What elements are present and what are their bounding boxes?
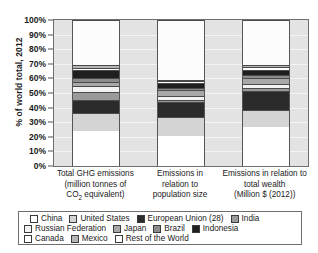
bar-segment[interactable]	[158, 20, 204, 80]
legend-swatch-icon	[153, 225, 161, 233]
bar-segment[interactable]	[73, 78, 119, 82]
legend-swatch-icon	[231, 215, 239, 223]
bar-segment[interactable]	[243, 84, 289, 88]
legend-row: Russian FederationJapanBrazilIndonesia	[23, 224, 298, 234]
bar-segment[interactable]	[158, 102, 204, 117]
bar-segment[interactable]	[73, 82, 119, 86]
bar-segment[interactable]	[73, 131, 119, 166]
y-tick-label: 0%	[34, 161, 46, 171]
x-category-label: Emissions inrelation topopulation size	[138, 169, 223, 201]
y-tick-label: 40%	[29, 103, 46, 113]
legend-label: Indonesia	[203, 225, 239, 233]
bar-segment[interactable]	[73, 86, 119, 93]
legend-swatch-icon	[24, 235, 32, 243]
bar-segment[interactable]	[73, 100, 119, 112]
legend-swatch-icon	[24, 225, 32, 233]
stacked-bar[interactable]	[157, 20, 205, 166]
bar-segment[interactable]	[158, 80, 204, 81]
bar-segment[interactable]	[158, 100, 204, 102]
legend-item[interactable]: Mexico	[71, 235, 108, 243]
legend-swatch-icon	[30, 215, 38, 223]
bar-segment[interactable]	[243, 70, 289, 75]
legend-swatch-icon	[115, 235, 123, 243]
y-tick-label: 100%	[24, 15, 46, 25]
legend-label: United States	[80, 215, 129, 223]
stacked-bar[interactable]	[72, 20, 120, 166]
legend-label: Mexico	[82, 235, 108, 243]
bar-segment[interactable]	[73, 65, 119, 67]
y-tick-label: 80%	[29, 44, 46, 54]
legend-label: Rest of the World	[126, 235, 189, 243]
x-category-label: Emissions in relation tototal wealth(Mil…	[222, 169, 307, 201]
y-axis-labels: 100%90%80%70%60%50%40%30%20%10%0%	[0, 19, 53, 167]
legend-label: European Union (28)	[148, 215, 224, 223]
y-tick-label: 30%	[29, 117, 46, 127]
bar-segment[interactable]	[243, 20, 289, 65]
bar-group	[54, 20, 308, 166]
legend-item[interactable]: China	[30, 215, 62, 223]
bar-segment[interactable]	[158, 117, 204, 136]
y-tick-label: 20%	[29, 132, 46, 142]
bar-segment[interactable]	[243, 110, 289, 128]
bar-segment[interactable]	[158, 81, 204, 82]
chart-figure: % of world total, 2012 100%90%80%70%60%5…	[0, 0, 318, 253]
legend-item[interactable]: Brazil	[153, 225, 184, 233]
bar-segment[interactable]	[73, 20, 119, 65]
bar-segment[interactable]	[73, 113, 119, 131]
legend-swatch-icon	[69, 215, 77, 223]
legend-label: India	[242, 215, 260, 223]
legend-swatch-icon	[113, 225, 121, 233]
bar-segment[interactable]	[73, 68, 119, 70]
legend-label: Canada	[35, 235, 64, 243]
bar-segment[interactable]	[243, 88, 289, 91]
legend-label: Russian Federation	[35, 225, 106, 233]
legend-item[interactable]: India	[231, 215, 260, 223]
bar-segment[interactable]	[243, 75, 289, 78]
y-tick-label: 70%	[29, 59, 46, 69]
bar-segment[interactable]	[243, 91, 289, 110]
plot-area	[53, 19, 309, 167]
bar-segment[interactable]	[243, 78, 289, 84]
legend-item[interactable]: Canada	[24, 235, 64, 243]
bar-segment[interactable]	[158, 88, 204, 90]
legend-row: ChinaUnited StatesEuropean Union (28)Ind…	[23, 214, 298, 224]
y-tick-label: 90%	[29, 30, 46, 40]
stacked-bar[interactable]	[242, 20, 290, 166]
legend-label: Japan	[124, 225, 146, 233]
bar-segment[interactable]	[73, 70, 119, 78]
bar-segment[interactable]	[158, 136, 204, 166]
y-tick-label: 50%	[29, 88, 46, 98]
legend-item[interactable]: Russian Federation	[24, 225, 106, 233]
legend-swatch-icon	[192, 225, 200, 233]
legend-swatch-icon	[71, 235, 79, 243]
bar-segment[interactable]	[158, 83, 204, 88]
legend-item[interactable]: Indonesia	[192, 225, 239, 233]
legend-label: China	[41, 215, 62, 223]
y-tick-label: 60%	[29, 73, 46, 83]
x-axis-labels: Total GHG emissions(million tonnes ofCO2…	[53, 169, 309, 211]
bar-segment[interactable]	[158, 96, 204, 100]
legend-row: CanadaMexicoRest of the World	[23, 234, 298, 244]
bar-segment[interactable]	[243, 127, 289, 166]
bar-segment[interactable]	[158, 90, 204, 96]
legend-label: Brazil	[164, 225, 184, 233]
legend-item[interactable]: Japan	[113, 225, 146, 233]
legend-item[interactable]: Rest of the World	[115, 235, 189, 243]
legend-item[interactable]: United States	[69, 215, 129, 223]
bar-segment[interactable]	[243, 67, 289, 69]
bar-segment[interactable]	[243, 65, 289, 67]
x-category-label: Total GHG emissions(million tonnes ofCO2…	[53, 169, 138, 203]
chart-legend: ChinaUnited StatesEuropean Union (28)Ind…	[18, 211, 302, 245]
y-tick-label: 10%	[29, 146, 46, 156]
legend-swatch-icon	[137, 215, 145, 223]
legend-item[interactable]: European Union (28)	[137, 215, 224, 223]
bar-segment[interactable]	[73, 92, 119, 100]
